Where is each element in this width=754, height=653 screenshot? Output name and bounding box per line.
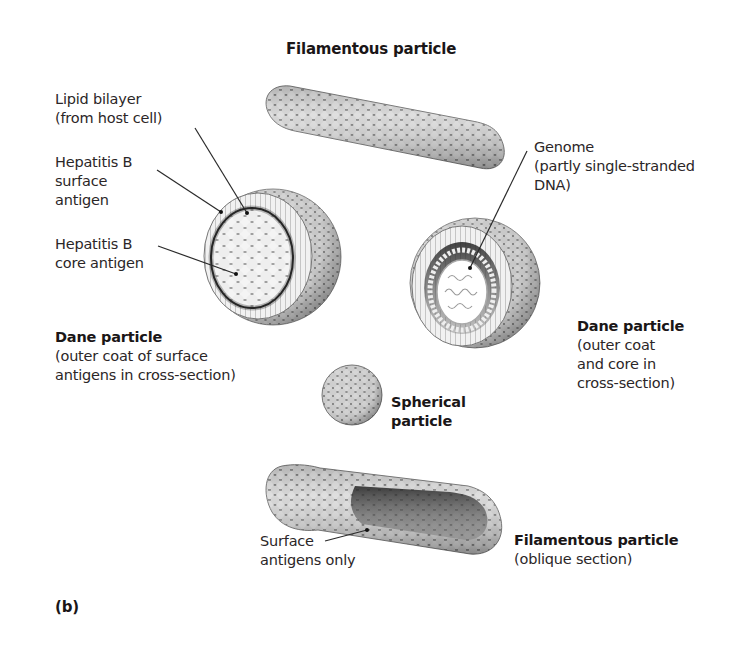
dane-particle-right: [410, 218, 540, 348]
label-genome: Genome (partly single-stranded DNA): [534, 138, 695, 195]
label-filamentous-particle-top: Filamentous particle: [286, 40, 456, 59]
spherical-particle: [322, 365, 382, 425]
panel-label: (b): [55, 598, 79, 617]
label-lipid-bilayer: Lipid bilayer (from host cell): [55, 90, 162, 128]
label-surface-antigens-only: Surface antigens only: [260, 532, 355, 570]
filamentous-particle-top: [266, 86, 504, 169]
dane-particle-left: [204, 189, 341, 325]
label-core-antigen: Hepatitis B core antigen: [55, 235, 144, 273]
label-dane-particle-left: Dane particle (outer coat of surface ant…: [55, 328, 236, 385]
label-surface-antigen: Hepatitis B surface antigen: [55, 153, 132, 210]
label-dane-particle-right: Dane particle (outer coat and core in cr…: [577, 317, 684, 393]
label-filamentous-particle-bottom: Filamentous particle (oblique section): [514, 531, 678, 569]
label-spherical-particle: Spherical particle: [391, 393, 466, 431]
